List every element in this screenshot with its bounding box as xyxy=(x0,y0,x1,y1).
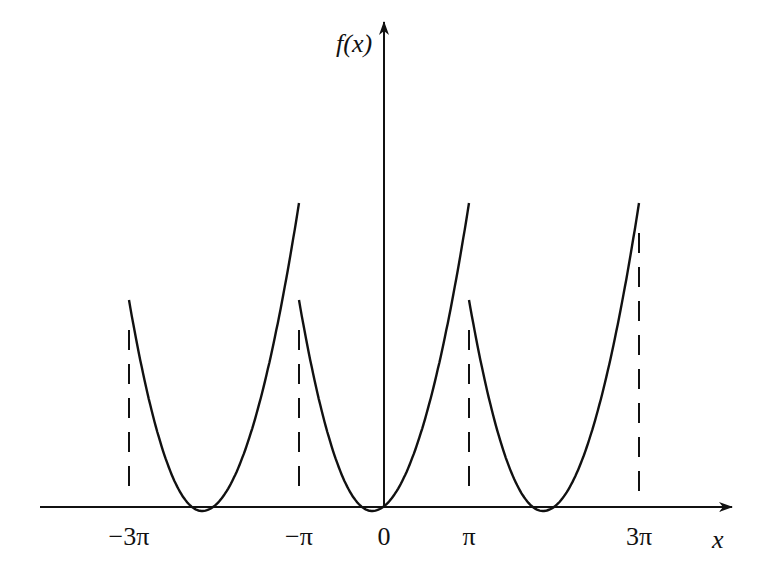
function-graph: f(x) x −3π−π0π3π xyxy=(0,0,766,574)
y-axis-label: f(x) xyxy=(336,29,372,58)
tick-label--3pi: −3π xyxy=(109,522,150,551)
plot-canvas: f(x) x −3π−π0π3π xyxy=(0,0,766,574)
x-tick-labels: −3π−π0π3π xyxy=(109,522,652,551)
curve-segment-2 xyxy=(469,203,639,511)
x-axis-label: x xyxy=(711,525,724,554)
tick-label-3pi: 3π xyxy=(626,522,652,551)
tick-label-0: 0 xyxy=(378,522,391,551)
curve-segment-0 xyxy=(129,203,299,511)
tick-label--pi: −π xyxy=(285,522,313,551)
tick-label-pi: π xyxy=(462,522,475,551)
